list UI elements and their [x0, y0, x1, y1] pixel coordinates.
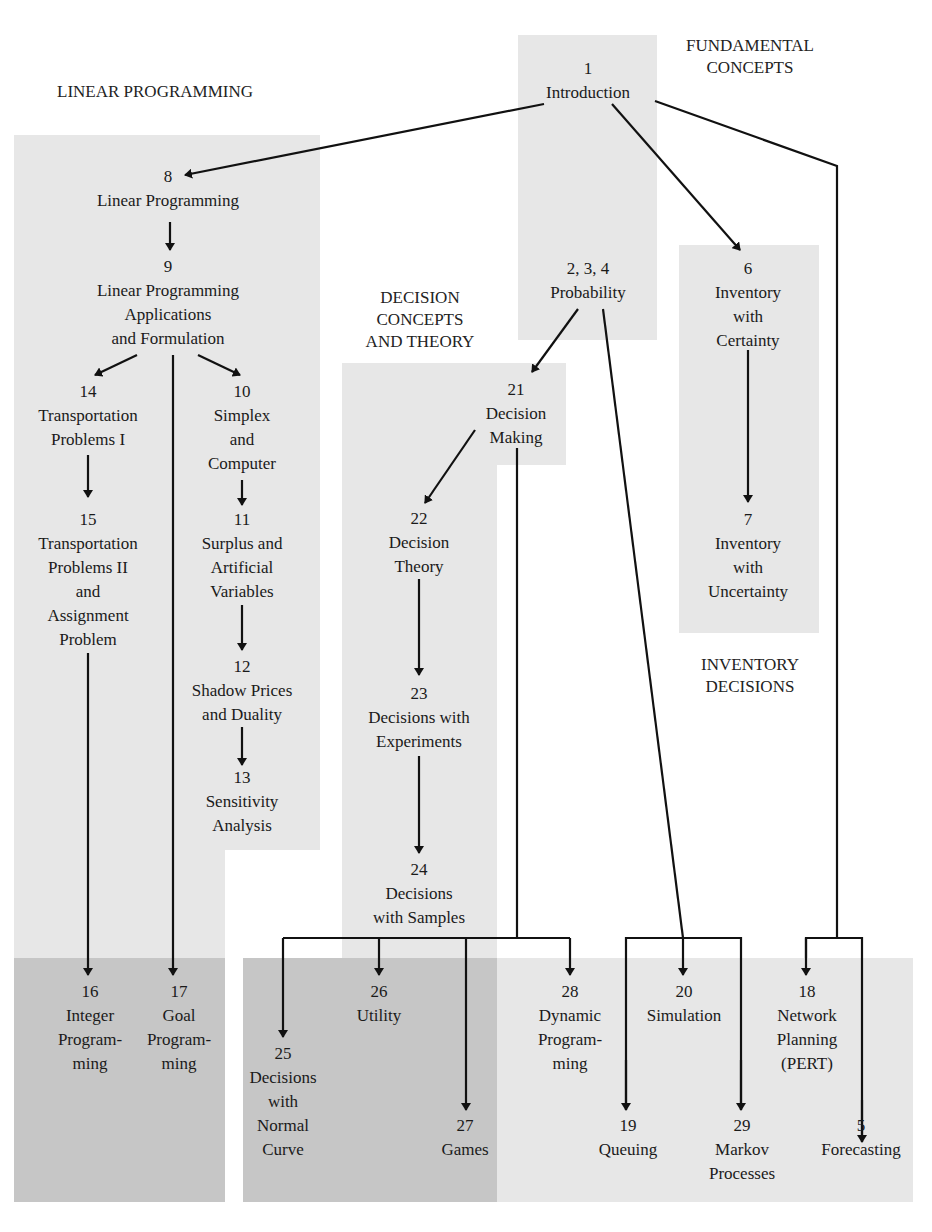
node-label: Sensitivity Analysis: [206, 790, 279, 838]
node-number: 20: [647, 980, 722, 1004]
node-21: 21Decision Making: [486, 378, 546, 450]
node-label: Linear Programming: [97, 189, 239, 213]
node-number: 13: [206, 766, 279, 790]
node-26: 26Utility: [357, 980, 401, 1028]
node-23: 23Decisions with Experiments: [368, 682, 470, 754]
node-label: Simulation: [647, 1004, 722, 1028]
node-16: 16Integer Program- ming: [58, 980, 122, 1076]
node-label: Markov Processes: [709, 1138, 775, 1186]
node-1: 1Introduction: [546, 57, 630, 105]
node-label: Utility: [357, 1004, 401, 1028]
linear-programming-panel: [14, 135, 320, 850]
node-label: Forecasting: [821, 1138, 900, 1162]
node-22: 22Decision Theory: [389, 507, 449, 579]
node-label: Surplus and Artificial Variables: [202, 532, 283, 604]
node-number: 8: [97, 165, 239, 189]
node-number: 6: [715, 257, 781, 281]
node-label: Decisions with Samples: [373, 882, 465, 930]
node-6: 6Inventory with Certainty: [715, 257, 781, 353]
node-label: Shadow Prices and Duality: [192, 679, 293, 727]
node-28: 28Dynamic Program- ming: [538, 980, 602, 1076]
section-title-inventory: INVENTORY DECISIONS: [660, 654, 840, 698]
node-13: 13Sensitivity Analysis: [206, 766, 279, 838]
node-number: 19: [599, 1114, 658, 1138]
node-label: Decisions with Normal Curve: [249, 1066, 316, 1162]
node-number: 9: [97, 255, 239, 279]
node-label: Dynamic Program- ming: [538, 1004, 602, 1076]
node-10: 10Simplex and Computer: [208, 380, 276, 476]
node-17: 17Goal Program- ming: [147, 980, 211, 1076]
node-14: 14Transportation Problems I: [38, 380, 138, 452]
node-number: 16: [58, 980, 122, 1004]
node-25: 25Decisions with Normal Curve: [249, 1042, 316, 1162]
node-label: Inventory with Uncertainty: [708, 532, 788, 604]
node-number: 28: [538, 980, 602, 1004]
node-11: 11Surplus and Artificial Variables: [202, 508, 283, 604]
node-12: 12Shadow Prices and Duality: [192, 655, 293, 727]
node-18: 18Network Planning (PERT): [777, 980, 837, 1076]
node-label: Introduction: [546, 81, 630, 105]
node-20: 20Simulation: [647, 980, 722, 1028]
node-number: 1: [546, 57, 630, 81]
node-label: Linear Programming Applications and Form…: [97, 279, 239, 351]
node-number: 5: [821, 1114, 900, 1138]
node-number: 29: [709, 1114, 775, 1138]
node-label: Inventory with Certainty: [715, 281, 781, 353]
node-number: 2, 3, 4: [550, 257, 626, 281]
node-label: Transportation Problems II and Assignmen…: [38, 532, 138, 652]
node-label: Queuing: [599, 1138, 658, 1162]
node-number: 10: [208, 380, 276, 404]
node-number: 14: [38, 380, 138, 404]
node-number: 26: [357, 980, 401, 1004]
node-number: 24: [373, 858, 465, 882]
node-label: Games: [441, 1138, 488, 1162]
node-label: Simplex and Computer: [208, 404, 276, 476]
section-title-fundamental: FUNDAMENTAL CONCEPTS: [660, 35, 840, 79]
node-number: 7: [708, 508, 788, 532]
node-number: 12: [192, 655, 293, 679]
node-label: Probability: [550, 281, 626, 305]
node-label: Network Planning (PERT): [777, 1004, 837, 1076]
node-15: 15Transportation Problems II and Assignm…: [38, 508, 138, 652]
node-label: Decision Theory: [389, 531, 449, 579]
node-label: Decision Making: [486, 402, 546, 450]
node-label: Integer Program- ming: [58, 1004, 122, 1076]
node-8: 8Linear Programming: [97, 165, 239, 213]
node-7: 7Inventory with Uncertainty: [708, 508, 788, 604]
node-number: 23: [368, 682, 470, 706]
node-number: 18: [777, 980, 837, 1004]
node-label: Goal Program- ming: [147, 1004, 211, 1076]
node-number: 27: [441, 1114, 488, 1138]
node-number: 21: [486, 378, 546, 402]
section-title-decision: DECISION CONCEPTS AND THEORY: [340, 287, 500, 353]
node-2-3-4: 2, 3, 4Probability: [550, 257, 626, 305]
node-number: 17: [147, 980, 211, 1004]
node-number: 25: [249, 1042, 316, 1066]
node-number: 11: [202, 508, 283, 532]
node-9: 9Linear Programming Applications and For…: [97, 255, 239, 351]
node-24: 24Decisions with Samples: [373, 858, 465, 930]
node-19: 19Queuing: [599, 1114, 658, 1162]
node-label: Transportation Problems I: [38, 404, 138, 452]
node-29: 29Markov Processes: [709, 1114, 775, 1186]
node-label: Decisions with Experiments: [368, 706, 470, 754]
node-5: 5Forecasting: [821, 1114, 900, 1162]
node-number: 22: [389, 507, 449, 531]
node-number: 15: [38, 508, 138, 532]
linear-programming-panel-lower: [14, 850, 225, 958]
section-title-linear: LINEAR PROGRAMMING: [30, 81, 280, 103]
node-27: 27Games: [441, 1114, 488, 1162]
